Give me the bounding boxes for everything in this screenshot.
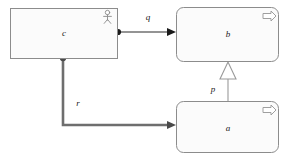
edge-r-label: r: [76, 98, 80, 108]
edge-q-arrowhead-icon: [167, 28, 176, 36]
edge-r-line: [63, 58, 172, 125]
edge-p[interactable]: [220, 62, 236, 101]
node-c[interactable]: c: [11, 9, 118, 59]
node-b-label: b: [226, 29, 231, 39]
edge-r[interactable]: [60, 55, 176, 129]
edge-q[interactable]: [115, 28, 176, 36]
diagram-svg: c b a q p r: [0, 0, 287, 161]
edge-r-arrowhead-icon: [167, 121, 176, 129]
edge-p-hollow-triangle-icon: [220, 62, 236, 79]
node-c-label: c: [62, 28, 66, 38]
edge-q-label: q: [146, 12, 151, 22]
node-a[interactable]: a: [177, 102, 279, 153]
diagram-canvas: c b a q p r: [0, 0, 287, 161]
node-a-label: a: [226, 123, 231, 133]
node-b[interactable]: b: [177, 8, 279, 62]
edge-p-label: p: [210, 84, 216, 94]
